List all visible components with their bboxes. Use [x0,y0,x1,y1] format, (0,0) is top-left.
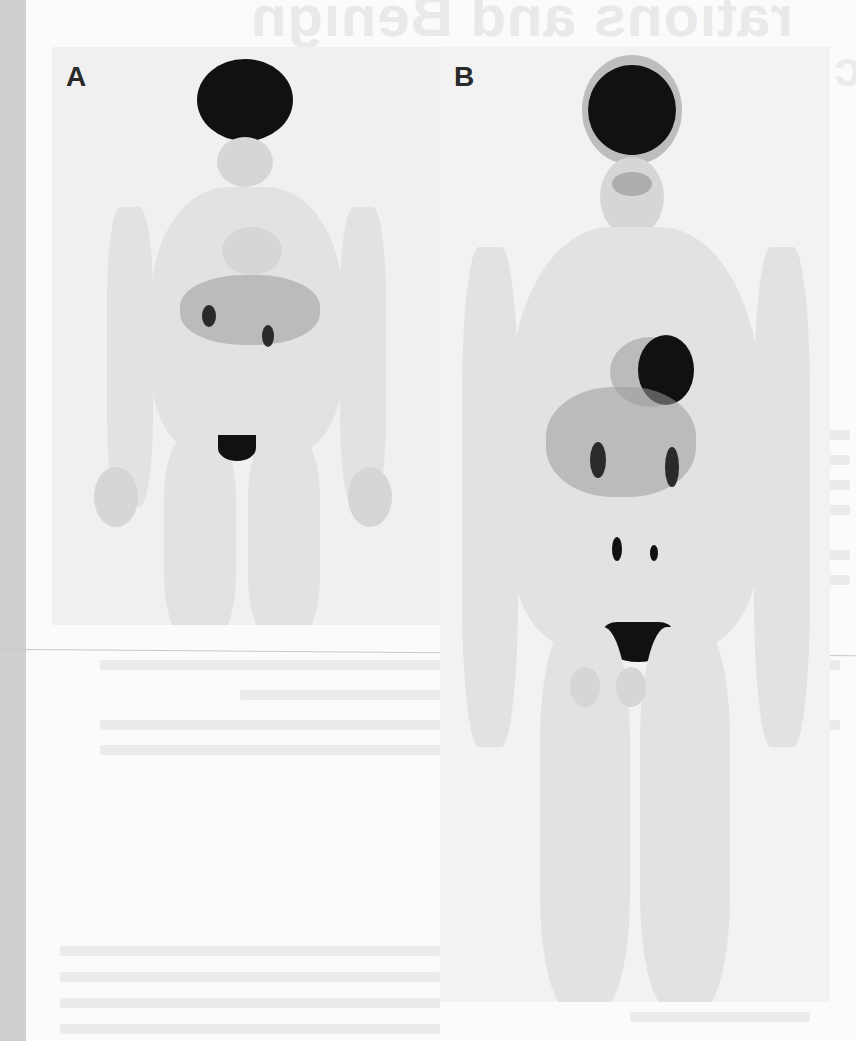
pet-panel-a: A [52,47,440,625]
brain-uptake [588,65,676,155]
brain-uptake [197,59,293,141]
panel-label-a: A [66,61,86,93]
pet-panel-b: B [440,47,830,1002]
panel-label-b: B [454,61,474,93]
